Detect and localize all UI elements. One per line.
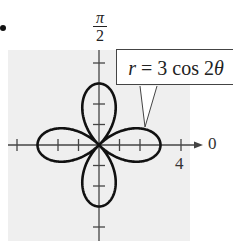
polar-graph-figure: π 2 bbox=[0, 0, 233, 251]
equation-theta: θ bbox=[214, 57, 224, 80]
equation-body: = 3 cos 2 bbox=[136, 57, 214, 80]
equation-callout: r = 3 cos 2 θ bbox=[116, 49, 233, 85]
polar-axis-arrow-icon bbox=[194, 142, 203, 149]
equation-text: r = 3 cos 2 θ bbox=[117, 50, 233, 86]
polar-axis-label-zero: 0 bbox=[208, 134, 217, 154]
polar-plot-svg bbox=[0, 0, 233, 251]
tick-label-4: 4 bbox=[175, 154, 184, 174]
equation-variable-r: r bbox=[128, 57, 136, 80]
